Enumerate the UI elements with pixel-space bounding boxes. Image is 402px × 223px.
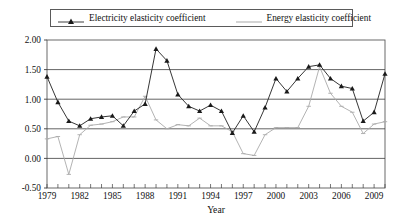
plot-frame: [47, 40, 385, 188]
x-tick-label: 1985: [103, 191, 122, 201]
x-axis-title: Year: [207, 204, 225, 215]
x-tick-label: 1991: [169, 191, 188, 201]
y-tick-label: 0.50: [25, 124, 42, 134]
x-tick-label: 2006: [332, 191, 351, 201]
x-tick-label: 1982: [70, 191, 89, 201]
x-tick-label: 1994: [201, 191, 220, 201]
y-tick-label: 0.00: [25, 154, 42, 164]
y-tick-label: 1.50: [25, 65, 42, 75]
y-tick-label: 1.00: [25, 95, 42, 105]
x-tick-label: 1988: [136, 191, 155, 201]
x-tick-label: 2003: [299, 191, 318, 201]
x-tick-label: 1979: [38, 191, 57, 201]
elasticity-coefficient-chart: Electricity elasticity coefficient Energ…: [0, 0, 402, 223]
x-tick-label: 2000: [267, 191, 286, 201]
x-tick-label: 2009: [365, 191, 384, 201]
plot-area: 2.001.501.000.500.00-0.50197919821985198…: [0, 0, 402, 223]
x-tick-label: 1997: [234, 191, 253, 201]
y-tick-label: 2.00: [25, 35, 42, 45]
